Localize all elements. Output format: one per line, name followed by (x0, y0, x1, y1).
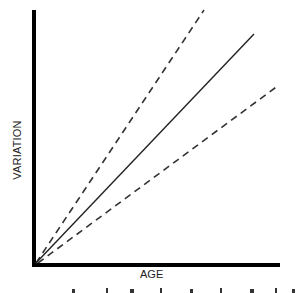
upper-dashed-line (36, 10, 204, 263)
y-axis-label-text: VARIATION (11, 120, 23, 179)
cropped-caption-text (60, 287, 300, 293)
line-diagram (0, 0, 302, 293)
y-axis-label: VARIATION (2, 100, 32, 200)
mean-solid-line (36, 34, 254, 263)
x-axis-label: AGE (140, 268, 163, 280)
lower-dashed-line (38, 85, 279, 263)
